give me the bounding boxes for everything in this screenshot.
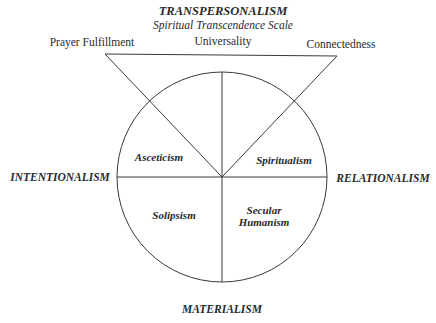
label-prayer-fulfillment: Prayer Fulfillment	[50, 36, 135, 49]
title-transpersonalism: TRANSPERSONALISM	[159, 4, 288, 18]
sector-asceticism: Asceticism	[134, 151, 184, 163]
label-intentionalism: INTENTIONALISM	[9, 171, 110, 183]
sector-secular: Secular	[247, 204, 283, 216]
sector-spiritualism: Spiritualism	[256, 154, 312, 166]
label-materialism: MATERIALISM	[181, 303, 263, 315]
label-universality: Universality	[195, 35, 252, 48]
label-relationalism: RELATIONALISM	[335, 172, 430, 184]
sector-solipsism: Solipsism	[152, 209, 196, 221]
subtitle-spiritual-transcendence-scale: Spiritual Transcendence Scale	[153, 19, 293, 32]
label-connectedness: Connectedness	[307, 38, 377, 50]
spiritual-worldview-diagram: TRANSPERSONALISM Spiritual Transcendence…	[0, 0, 436, 323]
sector-humanism: Humanism	[238, 216, 290, 228]
